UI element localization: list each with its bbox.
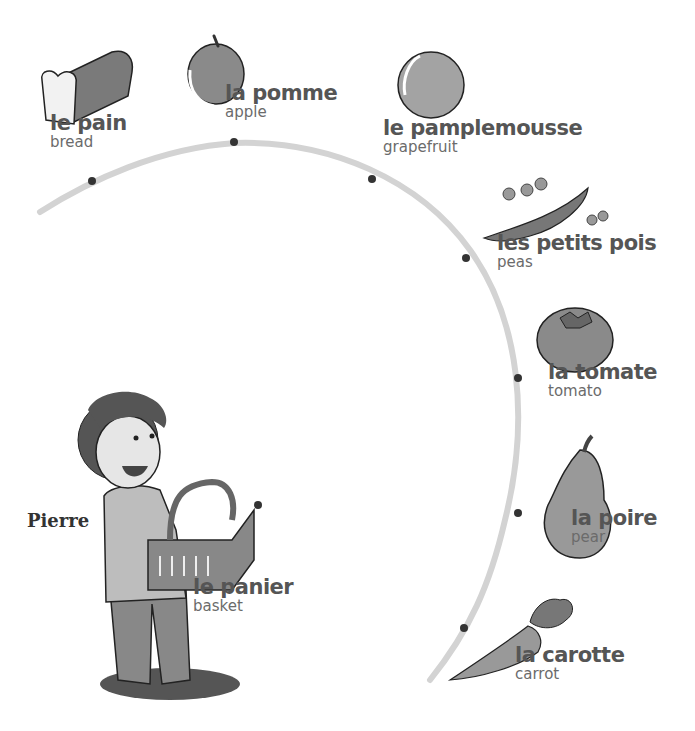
item-apple: la pomme apple <box>225 83 337 120</box>
french-word: la tomate <box>548 362 657 383</box>
french-word: le pain <box>50 113 127 134</box>
character-name: Pierre <box>27 510 89 531</box>
french-word: le pamplemousse <box>383 118 582 139</box>
french-word: les petits pois <box>497 233 656 254</box>
french-word: la pomme <box>225 83 337 104</box>
item-basket: le panier basket <box>193 577 293 614</box>
english-translation: peas <box>497 255 656 270</box>
french-word: la carotte <box>515 645 624 666</box>
item-peas: les petits pois peas <box>497 233 656 270</box>
french-word: la poire <box>571 508 657 529</box>
english-translation: pear <box>571 530 657 545</box>
vocabulary-illustration: le pain bread la pomme apple le pamplemo… <box>0 0 695 731</box>
item-carrot: la carotte carrot <box>515 645 624 682</box>
english-translation: apple <box>225 105 337 120</box>
english-translation: carrot <box>515 667 624 682</box>
item-pear: la poire pear <box>571 508 657 545</box>
english-translation: basket <box>193 599 293 614</box>
item-bread: le pain bread <box>50 113 127 150</box>
english-translation: bread <box>50 135 127 150</box>
item-grapefruit: le pamplemousse grapefruit <box>383 118 582 155</box>
french-word: le panier <box>193 577 293 598</box>
english-translation: grapefruit <box>383 140 582 155</box>
english-translation: tomato <box>548 384 657 399</box>
item-tomato: la tomate tomato <box>548 362 657 399</box>
grapefruit-icon <box>398 52 464 118</box>
